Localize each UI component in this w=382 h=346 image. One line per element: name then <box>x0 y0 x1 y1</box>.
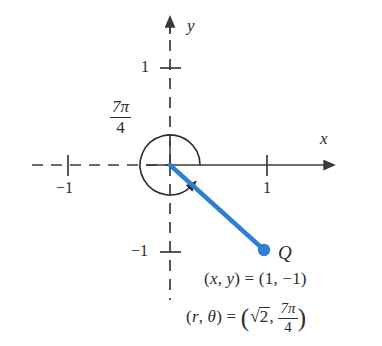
y-tick-label-negative-one: −1 <box>131 243 148 259</box>
y-axis-label: y <box>187 17 195 34</box>
cartesian-equals: = <box>245 269 255 288</box>
angle-numerator: 7π <box>110 98 131 118</box>
polar-theta-numerator: 7π <box>278 301 297 319</box>
x-tick-label-positive-one: 1 <box>263 180 271 196</box>
polar-coordinates-annotation: (r, θ) = (√2, 7π4) <box>186 301 306 336</box>
polar-comma-1: , <box>199 307 208 326</box>
polar-var-r: r <box>192 307 199 326</box>
terminal-ray <box>170 165 263 249</box>
plot-canvas <box>0 0 382 346</box>
cartesian-comma-2: , <box>273 269 282 288</box>
polar-equals: = <box>227 307 237 326</box>
angle-measure-label: 7π 4 <box>110 98 131 137</box>
polar-theta-denominator: 4 <box>278 319 297 336</box>
cartesian-coordinates-annotation: (x, y) = (1, −1) <box>204 270 307 287</box>
angle-fraction: 7π 4 <box>110 98 131 137</box>
cartesian-comma-1: , <box>218 269 227 288</box>
polar-lhs-close: ) <box>216 307 222 326</box>
radicand: 2 <box>259 307 270 325</box>
radical-root-two: √2 <box>249 307 269 325</box>
x-tick-label-negative-one: −1 <box>56 180 73 196</box>
point-q-label: Q <box>278 243 292 262</box>
polar-comma-2: , <box>270 307 279 326</box>
point-q-marker <box>258 244 270 256</box>
angle-denominator: 4 <box>110 118 131 137</box>
polar-rhs-open: ( <box>241 304 250 331</box>
polar-var-theta: θ <box>208 307 217 326</box>
cartesian-rhs-close: ) <box>301 269 307 288</box>
cartesian-lhs-close: ) <box>234 269 240 288</box>
y-tick-label-positive-one: 1 <box>141 59 149 75</box>
polar-rhs-close: ) <box>298 304 307 331</box>
cartesian-var-x: x <box>210 269 218 288</box>
cartesian-value-y: −1 <box>282 269 301 288</box>
x-axis-label: x <box>320 130 328 147</box>
polar-theta-fraction: 7π4 <box>278 301 297 336</box>
polar-coordinate-figure: x y −1 1 1 −1 7π 4 Q (x, y) = (1, −1) (r… <box>0 0 382 346</box>
